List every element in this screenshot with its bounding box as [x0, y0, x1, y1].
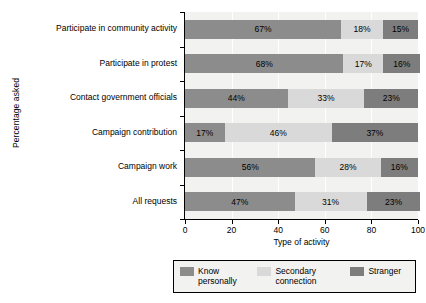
y-axis-tick	[180, 150, 185, 151]
x-axis-tick	[278, 220, 279, 224]
x-axis-tick	[371, 220, 372, 224]
category-label: Contact government officials	[70, 93, 177, 102]
x-axis-tick-label: 100	[405, 225, 426, 235]
plot-area: 67%18%15%68%17%16%44%33%23%17%46%37%56%2…	[185, 12, 418, 219]
bar-segment: 23%	[367, 192, 421, 211]
x-axis-tick	[325, 220, 326, 224]
x-axis-tick	[185, 220, 186, 224]
category-label: Campaign contribution	[92, 128, 177, 137]
gridline	[371, 12, 372, 219]
y-axis-tick	[180, 219, 185, 220]
legend-swatch-icon	[350, 267, 364, 276]
bar-row: 67%18%15%	[185, 20, 418, 39]
bar-segment: 28%	[315, 158, 380, 177]
legend-item: Secondary connection	[257, 266, 342, 286]
gridline	[278, 12, 279, 219]
x-axis-tick	[232, 220, 233, 224]
y-axis-tick	[180, 47, 185, 48]
x-axis-tick	[418, 220, 419, 224]
bar-row: 47%31%23%	[185, 192, 418, 211]
bar-segment: 46%	[225, 123, 332, 142]
y-axis-tick	[180, 81, 185, 82]
category-label: Participate in protest	[100, 59, 177, 68]
x-axis-title: Type of activity	[185, 237, 418, 247]
bar-row: 56%28%16%	[185, 158, 418, 177]
category-label: Campaign work	[118, 162, 177, 171]
legend-swatch-icon	[257, 267, 271, 276]
gridline	[418, 12, 419, 219]
bar-segment: 17%	[343, 54, 383, 73]
y-axis-tick	[180, 12, 185, 13]
category-label: Participate in community activity	[56, 24, 177, 33]
bar-segment: 17%	[185, 123, 225, 142]
bar-row: 17%46%37%	[185, 123, 418, 142]
bar-segment: 15%	[383, 20, 418, 39]
x-axis-tick-label: 0	[172, 225, 198, 235]
legend-label: Know personally	[198, 266, 249, 286]
gridline	[325, 12, 326, 219]
category-label-list: Participate in community activityPartici…	[16, 12, 181, 219]
bar-segment: 31%	[295, 192, 367, 211]
x-axis-tick-label: 20	[219, 225, 245, 235]
stacked-bar-chart: Percentage asked Participate in communit…	[0, 0, 426, 303]
chart-legend: Know personallySecondary connectionStran…	[173, 260, 416, 293]
bar-segment: 68%	[185, 54, 343, 73]
legend-swatch-icon	[180, 267, 194, 276]
legend-label: Secondary connection	[275, 266, 342, 286]
bar-segment: 23%	[364, 89, 418, 108]
x-axis-tick-label: 80	[358, 225, 384, 235]
legend-label: Stranger	[368, 266, 401, 276]
bar-segment: 18%	[341, 20, 383, 39]
x-axis-tick-label: 40	[265, 225, 291, 235]
bar-segment: 56%	[185, 158, 315, 177]
bar-segment: 37%	[332, 123, 418, 142]
bar-row: 44%33%23%	[185, 89, 418, 108]
y-axis-tick	[180, 185, 185, 186]
legend-item: Know personally	[180, 266, 249, 286]
bar-segment: 33%	[288, 89, 365, 108]
x-axis-line	[184, 219, 418, 220]
gridline	[232, 12, 233, 219]
legend-item: Stranger	[350, 266, 401, 276]
bar-segment: 47%	[185, 192, 295, 211]
y-axis-tick	[180, 116, 185, 117]
bar-row: 68%17%16%	[185, 54, 418, 73]
bar-segment: 44%	[185, 89, 288, 108]
category-label: All requests	[133, 197, 177, 206]
bar-segment: 16%	[383, 54, 420, 73]
bar-segment: 67%	[185, 20, 341, 39]
x-axis-tick-label: 60	[312, 225, 338, 235]
bar-segment: 16%	[381, 158, 418, 177]
